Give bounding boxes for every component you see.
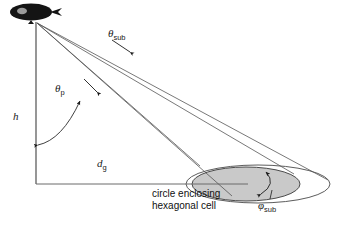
label-theta-sub-subscript: sub [113, 33, 125, 42]
cell-caption-line-2: hexagonal cell [152, 200, 220, 212]
label-phi-sub: φsub [258, 199, 276, 215]
beam-edge-lower [37, 23, 328, 180]
label-theta-p: θp [55, 82, 65, 98]
satellite-beam-geometry-figure: θsub θp h dg φsub circle enclosing hexag… [0, 0, 338, 228]
label-h-text: h [13, 110, 19, 122]
label-theta-p-subscript: p [60, 88, 64, 97]
label-d-g-subscript: g [103, 163, 107, 172]
label-d-g: dg [97, 157, 107, 173]
cell-edge-upper [37, 23, 232, 196]
theta-p-arc [38, 101, 80, 145]
cell-caption-line-1: circle enclosing [152, 188, 220, 200]
label-theta-sub: θsub [108, 27, 126, 43]
inner-beam-leader [84, 79, 97, 92]
cell-caption: circle enclosing hexagonal cell [152, 188, 220, 212]
label-h: h [13, 110, 19, 123]
cell-edge-lower [37, 23, 294, 174]
label-phi-sub-subscript: sub [264, 205, 276, 214]
satellite-icon [10, 4, 62, 25]
